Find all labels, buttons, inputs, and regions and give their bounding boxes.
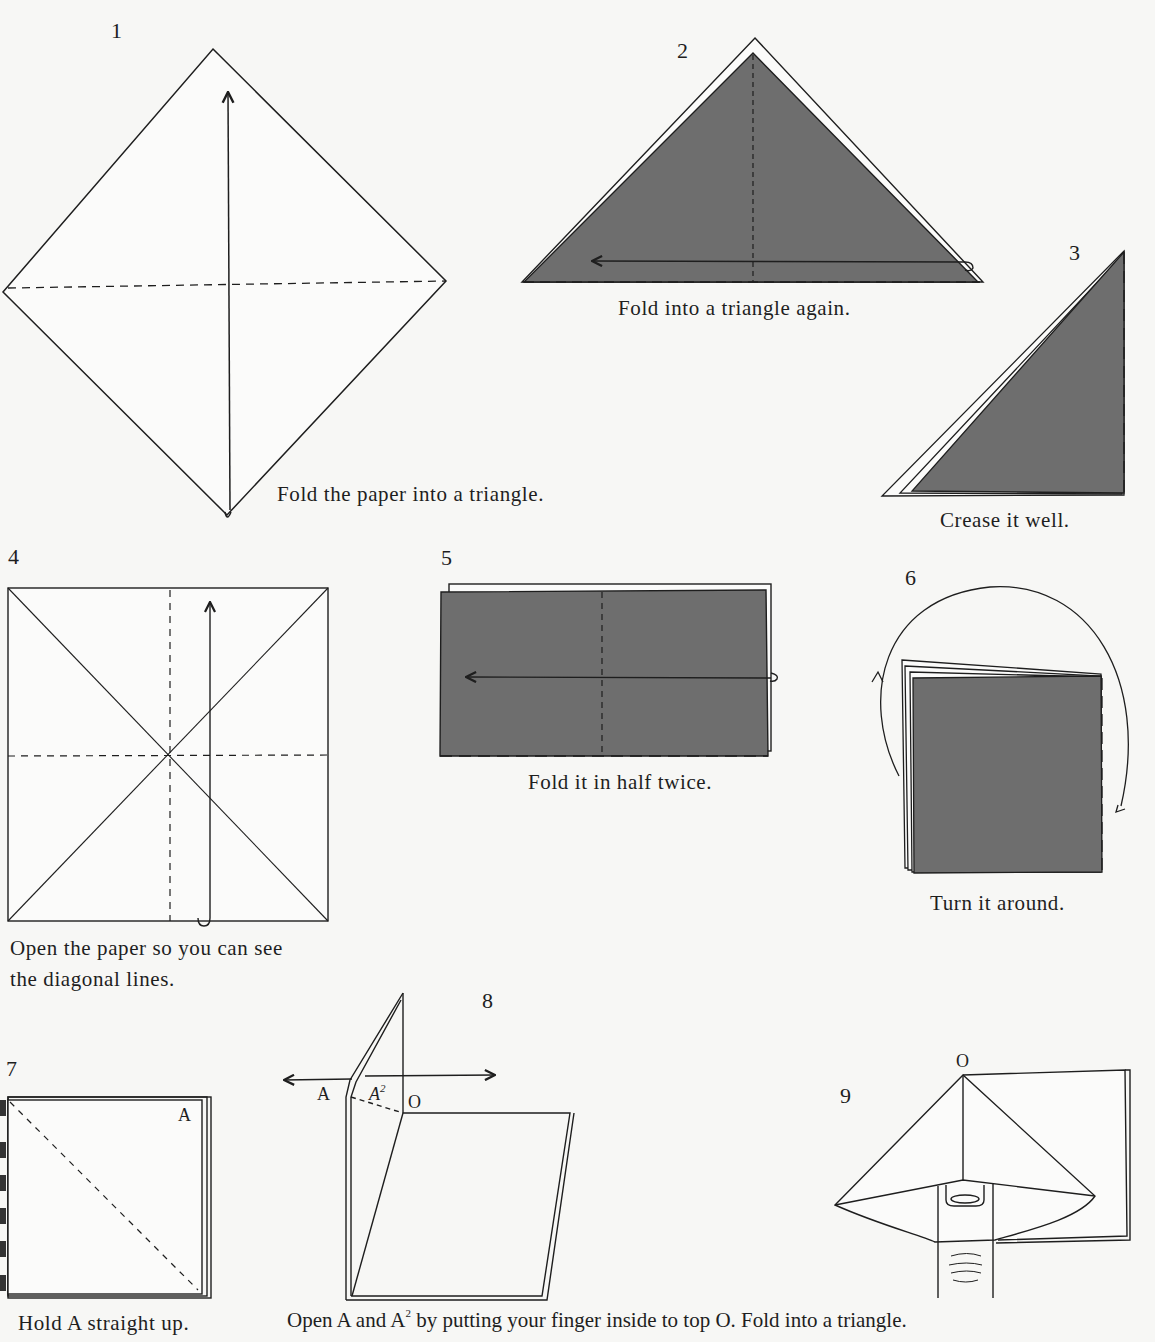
step-1-caption: Fold the paper into a triangle. (277, 484, 544, 505)
step-7-caption: Hold A straight up. (18, 1313, 189, 1334)
step-7-diagram (0, 1097, 211, 1298)
step-1-diagram (3, 49, 446, 517)
step-5-caption: Fold it in half twice. (528, 772, 712, 793)
point-label-o: O (408, 1093, 421, 1111)
point-label-o: O (956, 1052, 969, 1070)
step-8-9-caption: Open A and A2 by putting your finger ins… (287, 1310, 907, 1331)
step-number: 5 (441, 547, 452, 569)
step-6-caption: Turn it around. (930, 893, 1065, 914)
step-number: 8 (482, 990, 493, 1012)
step-number: 4 (8, 546, 19, 568)
origami-diagrams (0, 0, 1155, 1342)
binding-marks (0, 1100, 6, 1291)
step-number: 9 (840, 1085, 851, 1107)
step-number: 3 (1069, 242, 1080, 264)
fold-left-arrow-icon (466, 677, 771, 678)
step-2-diagram (522, 38, 983, 282)
step-4-diagram (8, 588, 328, 926)
step-number: 2 (677, 40, 688, 62)
step-8-diagram (284, 993, 574, 1300)
step-number: 6 (905, 567, 916, 589)
open-left-arrow-icon (284, 1079, 352, 1080)
step-3-diagram (882, 251, 1124, 496)
step-4-caption-line1: Open the paper so you can see (10, 938, 283, 959)
step-4-caption-line2: the diagonal lines. (10, 969, 175, 990)
point-label-a2: A2 (369, 1085, 386, 1103)
step-3-caption: Crease it well. (940, 510, 1070, 531)
open-right-arrow-icon (365, 1075, 495, 1076)
step-2-caption: Fold into a triangle again. (618, 298, 851, 319)
step-5-diagram (440, 584, 777, 756)
step-9-diagram (835, 1070, 1130, 1298)
step-6-diagram (872, 587, 1128, 873)
point-label-a: A (178, 1106, 191, 1124)
step-number: 7 (6, 1058, 17, 1080)
fold-left-arrow-icon (592, 261, 965, 262)
step-number: 1 (111, 20, 122, 42)
point-label-a: A (317, 1085, 330, 1103)
